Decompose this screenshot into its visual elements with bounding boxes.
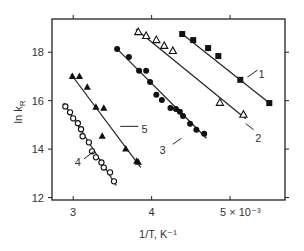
arrhenius-chart: 345 × 10⁻³12141618 12345 1/T, K⁻¹ ln kR: [0, 0, 304, 251]
data-point-series-3: [136, 68, 142, 74]
data-point-series-4: [107, 170, 112, 175]
x-tick-label: 3: [70, 206, 76, 218]
data-point-series-4: [93, 155, 98, 160]
data-point-series-1: [205, 45, 211, 51]
x-tick-label: 4: [149, 206, 155, 218]
series-label-2: 2: [255, 132, 261, 144]
data-point-series-4: [63, 104, 68, 109]
svg-text:ln kR: ln kR: [12, 100, 27, 123]
data-point-series-1: [179, 31, 185, 37]
data-point-series-4: [67, 110, 72, 115]
data-point-series-1: [266, 100, 272, 106]
data-point-series-3: [147, 79, 153, 85]
data-point-series-4: [78, 127, 83, 132]
data-point-series-3: [143, 68, 149, 74]
data-point-series-2: [135, 28, 142, 35]
y-tick-label: 12: [32, 192, 44, 204]
data-point-series-3: [114, 46, 120, 52]
data-point-series-5: [84, 83, 91, 90]
data-point-series-4: [101, 165, 106, 170]
series-label-4: 4: [75, 156, 81, 168]
axis-ticks: 345 × 10⁻³12141618: [32, 15, 289, 218]
data-point-series-2: [161, 42, 168, 49]
data-point-series-2: [153, 36, 160, 43]
data-point-series-2: [169, 47, 176, 54]
data-point-series-1: [237, 77, 243, 83]
data-point-series-4: [75, 121, 80, 126]
data-point-series-3: [187, 121, 193, 127]
series-label-1: 1: [258, 68, 264, 80]
x-tick-label: 5 × 10⁻³: [220, 206, 261, 218]
data-point-series-5: [69, 72, 76, 79]
data-point-series-5: [76, 72, 83, 79]
data-point-series-1: [190, 37, 196, 43]
series-label-3: 3: [160, 144, 166, 156]
data-point-series-5: [100, 104, 107, 111]
data-point-series-4: [86, 140, 91, 145]
data-point-series-3: [193, 127, 199, 133]
data-point-series-4: [99, 160, 104, 165]
data-point-series-3: [153, 92, 159, 98]
data-point-series-5: [99, 132, 106, 139]
y-tick-label: 16: [32, 95, 44, 107]
leader-line-3: [173, 138, 182, 144]
data-point-series-5: [122, 145, 129, 152]
leader-line-4: [84, 152, 93, 159]
data-point-series-1: [215, 53, 221, 59]
y-axis-title: ln kR: [12, 100, 27, 123]
leader-line-1: [247, 70, 257, 77]
data-point-series-3: [159, 97, 165, 103]
x-axis-title: 1/T, K⁻¹: [139, 228, 177, 240]
data-point-series-3: [167, 105, 173, 111]
data-point-series-3: [180, 113, 186, 119]
leader-line-2: [246, 124, 254, 130]
y-tick-label: 14: [32, 143, 44, 155]
data-point-series-4: [80, 134, 85, 139]
data-point-series-3: [201, 131, 207, 137]
y-tick-label: 18: [32, 46, 44, 58]
data-point-series-4: [71, 116, 76, 121]
data-point-series-3: [126, 54, 132, 60]
series-label-5: 5: [142, 123, 148, 135]
fit-line-5: [71, 74, 141, 167]
fit-line-1: [181, 33, 271, 104]
data-point-series-2: [240, 111, 247, 118]
data-point-series-4: [111, 179, 116, 184]
